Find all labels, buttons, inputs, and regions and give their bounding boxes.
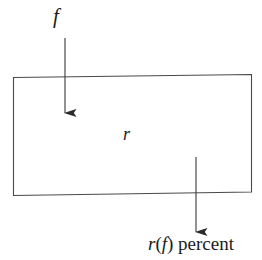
output-label: r(f) percent — [148, 234, 234, 253]
box-label: r — [123, 125, 130, 143]
input-signal-label: f — [53, 6, 59, 27]
input-signal-symbol: f — [53, 4, 59, 28]
diagram-canvas: f r r(f) percent — [0, 0, 262, 260]
diagram-vector-layer — [0, 0, 262, 260]
transfer-function-box — [14, 75, 252, 196]
box-label-symbol: r — [123, 124, 130, 144]
output-unit-label: percent — [178, 233, 234, 254]
